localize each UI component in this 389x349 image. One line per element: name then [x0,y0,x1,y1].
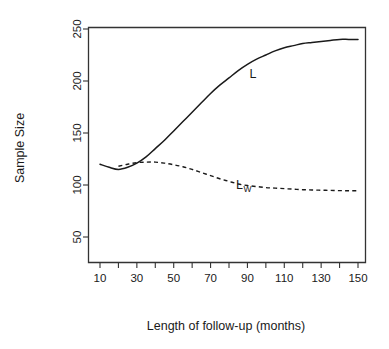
y-tick-label: 150 [71,123,83,142]
x-tick-label: 70 [204,272,217,284]
chart-background [0,0,389,349]
line-chart-svg: 1030507090110130150 50100150200250 LLW L… [0,0,389,349]
x-tick-label: 30 [130,272,143,284]
y-tick-label: 250 [71,19,83,38]
y-tick-label: 50 [71,231,83,244]
x-axis-title: Length of follow-up (months) [147,319,305,333]
chart-figure: 1030507090110130150 50100150200250 LLW L… [0,0,389,349]
x-tick-label: 110 [275,272,293,284]
y-axis-title: Sample Size [13,113,27,183]
x-tick-label: 150 [348,272,367,284]
x-tick-label: 130 [312,272,331,284]
y-tick-label: 100 [71,175,83,194]
x-tick-label: 10 [94,272,107,284]
y-tick-label: 200 [71,71,83,90]
series-label-L: L [249,67,256,81]
x-tick-label: 90 [241,272,254,284]
x-tick-label: 50 [167,272,180,284]
